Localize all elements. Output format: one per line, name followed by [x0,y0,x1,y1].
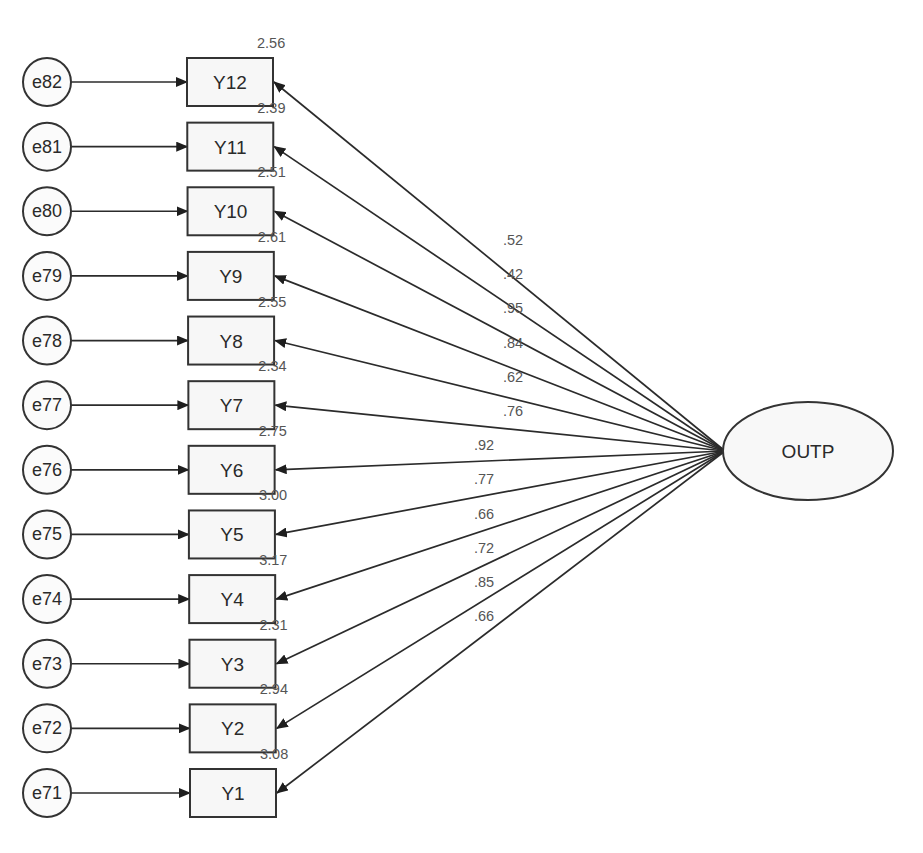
indicator-label: Y2 [221,718,244,739]
indicator-label: Y1 [221,783,244,804]
error-term-node[interactable]: e75 [23,510,71,558]
factor-loading-paths [274,82,725,793]
loading-coefficient: .52 [503,232,523,248]
error-label: e73 [32,654,62,674]
error-term-node[interactable]: e81 [23,123,71,171]
error-term-node[interactable]: e72 [23,704,71,752]
indicator-node[interactable]: Y92.61 [188,229,286,300]
error-label: e76 [32,460,62,480]
indicator-node[interactable]: Y53.00 [189,487,287,558]
error-label: e81 [32,137,62,157]
error-term-node[interactable]: e80 [23,187,71,235]
error-terms: e82e81e80e79e78e77e76e75e74e73e72e71 [23,58,71,817]
loading-coefficient: .92 [474,437,494,453]
intercept-label: 2.51 [258,164,286,180]
loading-coefficient: .42 [503,266,523,282]
intercept-label: 3.08 [260,746,288,762]
indicator-label: Y3 [221,654,244,675]
error-term-node[interactable]: e73 [23,640,71,688]
error-term-node[interactable]: e71 [23,769,71,817]
loading-path [277,451,725,793]
loading-coefficient: .95 [503,300,523,316]
intercept-label: 2.94 [260,681,288,697]
error-label: e77 [32,395,62,415]
intercept-label: 2.34 [258,358,286,374]
indicator-node[interactable]: Y102.51 [188,164,286,235]
intercept-label: 2.75 [259,423,287,439]
error-term-node[interactable]: e77 [23,381,71,429]
observed-indicators: Y122.56Y112.39Y102.51Y92.61Y82.55Y72.34Y… [187,35,288,817]
error-term-paths [71,82,190,793]
intercept-label: 2.31 [259,617,287,633]
loading-coefficient: .77 [474,471,494,487]
error-term-node[interactable]: e76 [23,446,71,494]
loading-coefficient: .66 [474,608,494,624]
indicator-node[interactable]: Y62.75 [189,423,287,494]
loading-path [275,405,725,451]
loading-coefficient: .85 [474,574,494,590]
error-label: e79 [32,266,62,286]
error-term-node[interactable]: e82 [23,58,71,106]
intercept-label: 2.39 [257,100,285,116]
indicator-label: Y8 [219,331,242,352]
indicator-node[interactable]: Y43.17 [189,552,287,623]
indicator-label: Y11 [214,137,246,158]
error-label: e74 [32,589,62,609]
loading-path [276,451,725,664]
indicator-node[interactable]: Y22.94 [190,681,288,752]
intercept-label: 2.56 [257,35,285,51]
indicator-node[interactable]: Y72.34 [188,358,286,429]
indicator-node[interactable]: Y82.55 [188,294,286,365]
error-label: e71 [32,783,62,803]
indicator-label: Y5 [220,524,243,545]
indicator-label: Y7 [220,395,243,416]
loading-coefficient: .66 [474,506,494,522]
loading-path [275,276,725,451]
error-label: e80 [32,201,62,221]
indicator-node[interactable]: Y32.31 [189,617,287,688]
error-label: e78 [32,331,62,351]
loading-path [275,211,725,451]
latent-label: OUTP [782,441,835,462]
indicator-label: Y4 [221,589,245,610]
loading-coefficient: .72 [474,540,494,556]
loading-coefficient: .84 [503,335,523,351]
indicator-node[interactable]: Y112.39 [187,100,285,171]
loading-coefficient: .76 [503,403,523,419]
error-label: e75 [32,524,62,544]
indicator-node[interactable]: Y122.56 [187,35,285,106]
error-term-node[interactable]: e79 [23,252,71,300]
indicator-label: Y9 [219,266,242,287]
intercept-label: 2.61 [258,229,286,245]
latent-variable-outp[interactable]: OUTP [723,402,893,500]
loading-coefficient: .62 [503,369,523,385]
error-term-node[interactable]: e78 [23,317,71,365]
intercept-label: 2.55 [258,294,286,310]
sem-path-diagram: e82e81e80e79e78e77e76e75e74e73e72e71 Y12… [0,0,923,853]
loading-path [276,451,725,470]
error-label: e72 [32,718,62,738]
error-label: e82 [32,72,62,92]
indicator-label: Y10 [214,201,248,222]
loading-path [276,451,725,599]
intercept-label: 3.17 [259,552,287,568]
indicator-label: Y12 [213,72,247,93]
indicator-label: Y6 [220,460,243,481]
indicator-node[interactable]: Y13.08 [190,746,288,817]
intercept-label: 3.00 [259,487,287,503]
loading-path [274,147,725,451]
error-term-node[interactable]: e74 [23,575,71,623]
